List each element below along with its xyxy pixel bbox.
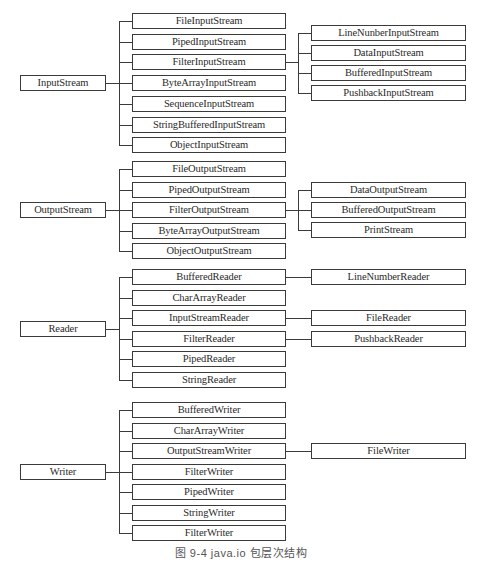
connector-line [298,190,311,191]
class-box-pushback-input-stream: PushbackInputStream [311,85,466,101]
connector-line [119,210,132,211]
connector-line [119,169,132,170]
class-box-byte-array-output-stream: ByteArrayOutputStream [132,223,286,239]
class-box-char-array-writer: CharArrayWriter [132,423,286,439]
java-io-hierarchy-diagram: InputStreamFileInputStreamPipedInputStre… [0,0,482,577]
class-box-piped-writer: PipedWriter [132,484,286,500]
bracket-line [119,277,120,381]
connector-line [119,451,132,452]
class-box-filter-output-stream: FilterOutputStream [132,202,286,218]
class-box-buffered-output-stream: BufferedOutputStream [311,202,466,218]
connector-line [119,190,132,191]
connector-line [286,210,298,211]
connector-line [119,62,132,63]
connector-line [119,42,132,43]
class-box-piped-input-stream: PipedInputStream [132,34,286,50]
class-box-file-writer: FileWriter [311,443,466,459]
class-box-buffered-writer: BufferedWriter [132,402,286,418]
connector-line [298,210,311,211]
connector-line [119,339,132,340]
connector-line [119,410,132,411]
connector-line [119,277,132,278]
connector-line [119,251,132,252]
class-box-object-input-stream: ObjectInputStream [132,137,286,153]
connector-line [119,533,132,534]
connector-line [106,472,119,473]
connector-line [286,62,298,63]
connector-line [286,451,311,452]
connector-line [106,210,119,211]
connector-line [106,83,119,84]
class-box-input-stream: InputStream [20,75,106,91]
connector-line [119,145,132,146]
class-box-file-output-stream: FileOutputStream [132,161,286,177]
class-box-writer: Writer [20,464,106,480]
connector-line [286,339,311,340]
connector-line [298,53,311,54]
connector-line [119,231,132,232]
class-box-char-array-reader: CharArrayReader [132,290,286,306]
connector-line [298,93,311,94]
connector-line [106,329,119,330]
class-box-buffered-reader: BufferedReader [132,269,286,285]
class-box-string-writer: StringWriter [132,505,286,521]
class-box-line-nunber-input-stream: LineNunberInputStream [311,25,466,41]
class-box-byte-array-input-stream: ByteArrayInputStream [132,75,286,91]
class-box-piped-output-stream: PipedOutputStream [132,182,286,198]
connector-line [119,298,132,299]
connector-line [119,318,132,319]
class-box-file-input-stream: FileInputStream [132,13,286,29]
class-box-line-number-reader: LineNumberReader [311,269,466,285]
connector-line [286,277,311,278]
class-box-output-stream-writer: OutputStreamWriter [132,443,286,459]
connector-line [286,318,311,319]
class-box-object-output-stream: ObjectOutputStream [132,243,286,259]
class-box-reader: Reader [20,321,106,337]
connector-line [119,472,132,473]
connector-line [119,104,132,105]
class-box-data-output-stream: DataOutputStream [311,182,466,198]
class-box-data-input-stream: DataInputStream [311,45,466,61]
class-box-buffered-input-stream: BufferedInputStream [311,65,466,81]
class-box-print-stream: PrintStream [311,222,466,238]
class-box-piped-reader: PipedReader [132,351,286,367]
class-box-output-stream: OutputStream [20,202,106,218]
connector-line [119,431,132,432]
connector-line [119,21,132,22]
class-box-filter-writer: FilterWriter [132,464,286,480]
class-box-filter-reader: FilterReader [132,331,286,347]
class-box-filter-writer: FilterWriter [132,525,286,541]
connector-line [298,230,311,231]
connector-line [119,83,132,84]
connector-line [119,125,132,126]
connector-line [119,492,132,493]
bracket-line [298,33,299,94]
class-box-input-stream-reader: InputStreamReader [132,310,286,326]
connector-line [119,380,132,381]
connector-line [298,33,311,34]
class-box-pushback-reader: PushbackReader [311,331,466,347]
connector-line [119,513,132,514]
figure-caption: 图 9-4 java.io 包层次结构 [0,544,482,560]
connector-line [119,359,132,360]
class-box-string-reader: StringReader [132,372,286,388]
class-box-filter-input-stream: FilterInputStream [132,54,286,70]
class-box-string-buffered-input-stream: StringBufferedInputStream [132,117,286,133]
class-box-sequence-input-stream: SequenceInputStream [132,96,286,112]
class-box-file-reader: FileReader [311,310,466,326]
connector-line [298,73,311,74]
